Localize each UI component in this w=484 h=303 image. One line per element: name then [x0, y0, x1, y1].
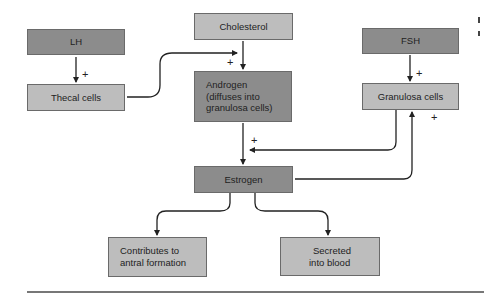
sign-granulosa-estrogen: +: [251, 135, 257, 146]
sign-thecal-androgen: +: [227, 57, 233, 68]
node-blood-line2: into blood: [309, 257, 351, 269]
edge-mark-bottom: [478, 31, 480, 36]
node-cholesterol-label: Cholesterol: [219, 21, 267, 33]
node-fsh: FSH: [362, 28, 459, 54]
node-androgen-line3: granulosa cells): [206, 102, 273, 114]
node-androgen-line2: (diffuses into: [206, 91, 273, 103]
edge-mark-top: [478, 17, 480, 23]
node-thecal-label: Thecal cells: [51, 92, 101, 104]
node-blood-line1: Secreted: [309, 245, 351, 257]
node-androgen-line1: Androgen: [206, 79, 273, 91]
sign-lh-thecal: +: [82, 69, 88, 80]
node-antral-line2: antral formation: [120, 257, 186, 269]
node-cholesterol: Cholesterol: [194, 13, 293, 40]
node-estrogen: Estrogen: [194, 166, 293, 193]
node-antral-line1: Contributes to: [120, 245, 186, 257]
node-estrogen-label: Estrogen: [224, 174, 262, 186]
sign-fsh-granulosa: +: [416, 68, 422, 79]
node-granulosa-label: Granulosa cells: [378, 91, 443, 103]
node-granulosa-cells: Granulosa cells: [362, 83, 459, 110]
node-lh: LH: [27, 29, 125, 55]
node-antral-formation: Contributes to antral formation: [108, 237, 207, 277]
node-fsh-label: FSH: [401, 35, 420, 47]
arrow-estrogen-blood: [255, 193, 328, 235]
node-secreted-blood: Secreted into blood: [280, 237, 380, 276]
sign-estrogen-granulosa: +: [431, 112, 437, 123]
bottom-divider: [27, 291, 484, 293]
node-lh-label: LH: [70, 36, 82, 48]
arrow-estrogen-granulosa: [295, 112, 412, 179]
arrow-estrogen-antral: [157, 193, 230, 235]
node-thecal-cells: Thecal cells: [27, 84, 125, 111]
node-androgen: Androgen (diffuses into granulosa cells): [194, 71, 292, 122]
